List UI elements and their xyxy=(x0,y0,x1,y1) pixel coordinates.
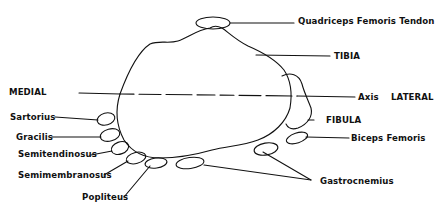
semitendinosus-oval xyxy=(109,139,130,156)
biceps-femoris-leader xyxy=(306,137,349,138)
label-biceps-femoris: Biceps Femoris xyxy=(351,134,426,143)
gastrocnemius-medial-oval xyxy=(253,141,279,157)
popliteus-oval xyxy=(144,157,167,170)
axis-line-lateral xyxy=(297,96,355,97)
gastrocnemius-leader-1 xyxy=(263,152,311,180)
axis-line-medial xyxy=(79,93,120,94)
label-quadriceps-tendon: Quadriceps Femoris Tendon xyxy=(298,17,435,26)
label-gracilis: Gracilis xyxy=(16,133,53,142)
label-axis: Axis xyxy=(358,93,379,102)
label-popliteus: Popliteus xyxy=(82,193,128,202)
sartorius-oval xyxy=(96,111,116,127)
quadriceps-tendon-oval xyxy=(196,17,230,29)
gastrocnemius-lateral-oval xyxy=(175,156,204,171)
tibia-outline xyxy=(117,27,291,159)
label-tibia: TIBIA xyxy=(334,52,360,61)
label-medial: MEDIAL xyxy=(9,88,46,97)
biceps-femoris-oval xyxy=(285,130,309,146)
fibula-outline xyxy=(282,74,311,129)
gracilis-oval xyxy=(99,127,121,144)
label-fibula: FIBULA xyxy=(326,116,361,125)
label-sartorius: Sartorius xyxy=(10,113,56,122)
sartorius-leader xyxy=(55,117,98,120)
label-semitendinosus: Semitendinosus xyxy=(18,150,97,159)
label-gastrocnemius: Gastrocnemius xyxy=(320,177,394,186)
gastrocnemius-leader-2 xyxy=(204,165,311,180)
label-semimembranosus: Semimembranosus xyxy=(18,171,112,180)
axis-line-dashed xyxy=(120,94,297,96)
label-lateral: LATERAL xyxy=(391,93,434,102)
semimembranosus-oval xyxy=(125,150,147,166)
